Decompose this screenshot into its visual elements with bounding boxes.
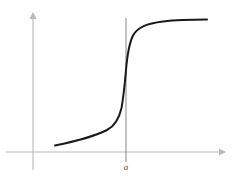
- function-graph-figure: a: [0, 0, 239, 181]
- graph-canvas: a: [0, 0, 239, 181]
- x-axis-arrow-icon: [219, 148, 226, 155]
- y-axis-arrow-icon: [29, 12, 36, 19]
- cube-root-curve: [55, 20, 207, 146]
- x-axis-label-a: a: [124, 162, 129, 172]
